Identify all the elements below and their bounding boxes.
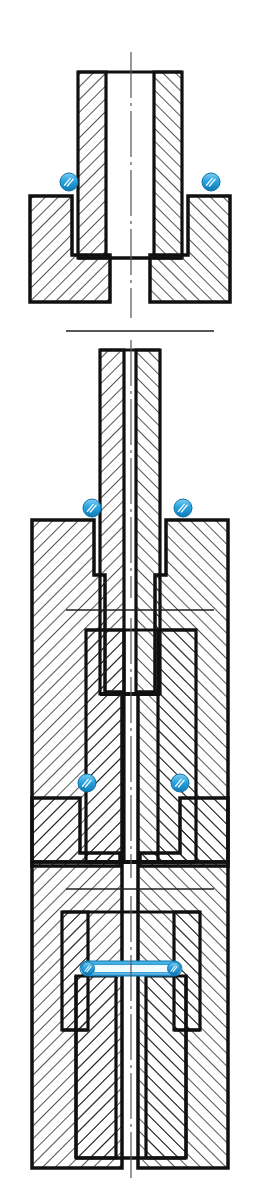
panel-2-seal-right xyxy=(174,499,192,517)
cross-section-drawing xyxy=(0,0,260,1188)
panel-3-seal-left xyxy=(78,774,96,792)
drawing-sheet xyxy=(0,0,260,1188)
panel-3-seal-right xyxy=(171,774,189,792)
gasket-end-right xyxy=(168,962,181,975)
panel-4 xyxy=(62,896,200,1178)
panel-2-seal-left xyxy=(83,499,101,517)
gasket-end-left xyxy=(82,962,95,975)
panel-1-seal-right xyxy=(202,173,220,191)
panel-1-seal-left xyxy=(60,173,78,191)
